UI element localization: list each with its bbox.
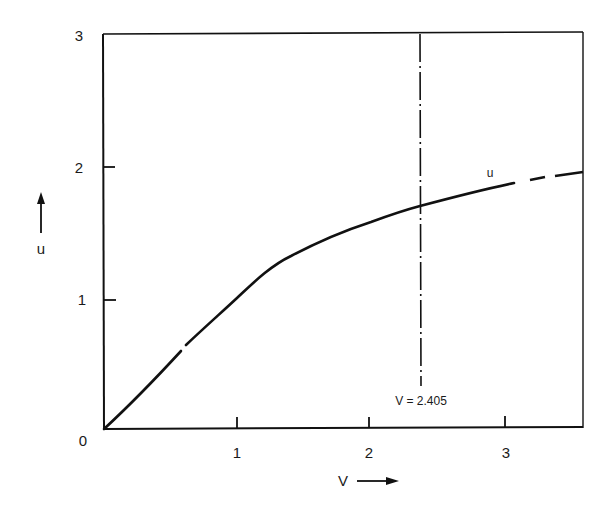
y-ticks [104,167,116,300]
cutoff-vline [420,34,421,386]
x-tick-label-1: 1 [233,444,241,461]
y-tick-label-1: 1 [78,291,86,308]
curve-u-segment-1 [104,351,181,429]
x-axis-line [103,427,583,429]
up-arrow-head-icon [37,192,45,204]
curve-label-u: u [487,166,494,180]
x-ticks [237,416,505,428]
x-tick-label-2: 2 [365,444,373,461]
x-axis-label: V [338,472,348,489]
curve-u-dashed [530,172,583,180]
y-axis-label: u [37,240,45,257]
y-axis-title: u [37,192,45,257]
chart: 1 2 3 0 1 2 3 V = 2.405 u u V [0,0,613,509]
y-tick-label-0: 0 [79,432,87,449]
frame-top [103,32,583,34]
y-tick-label-2: 2 [75,159,83,176]
y-axis-line [103,34,104,430]
x-tick-label-3: 3 [502,444,510,461]
y-tick-label-3: 3 [75,27,83,44]
x-tick-labels: 1 2 3 [233,444,510,461]
y-tick-labels: 0 1 2 3 [75,27,87,449]
x-axis-title: V [338,472,399,489]
cutoff-vline-label: V = 2.405 [395,394,447,408]
curve-u-segment-2 [186,183,514,345]
right-arrow-head-icon [386,477,399,485]
